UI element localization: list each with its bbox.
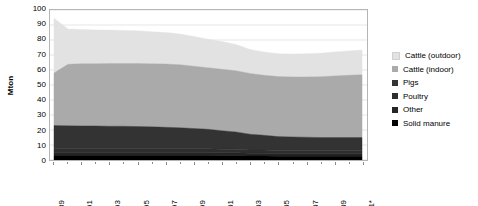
y-tick-label: 50 <box>37 81 46 89</box>
legend-item[interactable]: Cattle (outdoor) <box>392 49 478 63</box>
x-tick-mark <box>53 162 54 165</box>
x-tick-label: 1989 <box>57 200 66 206</box>
x-tick-mark <box>335 162 336 165</box>
y-tick-label: 60 <box>37 66 46 74</box>
x-tick-mark-minor <box>123 162 124 164</box>
x-tick-mark-minor <box>236 162 237 164</box>
legend-item[interactable]: Pigs <box>392 76 478 90</box>
x-tick-mark <box>194 162 195 165</box>
x-tick-label: 1997 <box>170 200 179 206</box>
legend-swatch-icon <box>392 80 398 86</box>
legend-swatch-icon <box>392 93 398 99</box>
x-tick-mark-minor <box>95 162 96 164</box>
y-tick-label: 30 <box>37 111 46 119</box>
legend-item[interactable]: Poultry <box>392 90 478 104</box>
x-tick-mark <box>307 162 308 165</box>
y-axis-tick-labels: 1009080706050403020100 <box>18 9 49 161</box>
x-tick-label: 2007 <box>311 200 320 206</box>
legend-item-label: Poultry <box>403 92 428 101</box>
x-tick-mark-minor <box>180 162 181 164</box>
x-axis-tick-labels: 1989199119931995199719992001200320052007… <box>49 162 368 206</box>
y-tick-label: 100 <box>33 5 46 13</box>
area-series <box>54 156 362 161</box>
legend-item-label: Solid manure <box>403 119 450 128</box>
x-tick-mark <box>109 162 110 165</box>
stacked-area-chart: Mton 1009080706050403020100 198919911993… <box>0 0 478 206</box>
x-tick-label: 2009 <box>339 200 348 206</box>
x-tick-mark-minor <box>349 162 350 164</box>
x-tick-label: 1995 <box>142 200 151 206</box>
x-tick-mark <box>250 162 251 165</box>
x-tick-label: 1993 <box>113 200 122 206</box>
x-tick-mark-minor <box>264 162 265 164</box>
x-tick-mark <box>278 162 279 165</box>
x-tick-mark-minor <box>293 162 294 164</box>
legend-item-label: Cattle (indoor) <box>403 65 454 74</box>
legend-item[interactable]: Other <box>392 103 478 117</box>
legend-swatch-icon <box>392 52 400 60</box>
x-tick-label: 1999 <box>198 200 207 206</box>
legend-swatch-icon <box>392 107 398 113</box>
y-tick-label: 0 <box>42 157 46 165</box>
legend-item[interactable]: Cattle (indoor) <box>392 63 478 77</box>
x-tick-mark-minor <box>208 162 209 164</box>
x-tick-mark <box>166 162 167 165</box>
y-axis-title-label: Mton <box>7 75 16 95</box>
y-tick-label: 70 <box>37 51 46 59</box>
plot-area <box>49 9 368 161</box>
legend-swatch-icon <box>392 66 398 72</box>
chart-legend: Cattle (outdoor)Cattle (indoor)PigsPoult… <box>392 49 478 130</box>
x-tick-mark <box>363 162 364 165</box>
x-tick-mark <box>222 162 223 165</box>
plot-svg <box>50 10 367 160</box>
legend-item-label: Other <box>403 105 423 114</box>
x-tick-mark <box>81 162 82 165</box>
legend-swatch-icon <box>392 120 398 126</box>
x-tick-mark-minor <box>152 162 153 164</box>
x-tick-label: 2005 <box>282 200 291 206</box>
legend-item-label: Cattle (outdoor) <box>405 51 461 60</box>
legend-item-label: Pigs <box>403 78 419 87</box>
x-tick-mark <box>138 162 139 165</box>
x-tick-label: 1991 <box>85 200 94 206</box>
x-tick-label: 2001 <box>226 200 235 206</box>
x-tick-label: 2011* <box>367 200 376 206</box>
x-tick-mark-minor <box>321 162 322 164</box>
legend-item[interactable]: Solid manure <box>392 117 478 131</box>
y-tick-label: 10 <box>37 142 46 150</box>
y-tick-label: 20 <box>37 127 46 135</box>
y-tick-label: 40 <box>37 96 46 104</box>
x-tick-mark-minor <box>67 162 68 164</box>
y-tick-label: 80 <box>37 35 46 43</box>
x-tick-label: 2003 <box>254 200 263 206</box>
y-tick-label: 90 <box>37 20 46 28</box>
